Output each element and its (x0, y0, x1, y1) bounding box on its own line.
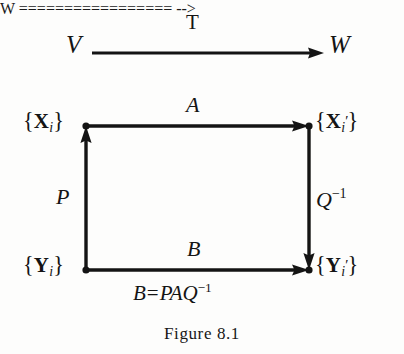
edge-right-base: Q (316, 187, 332, 212)
square-edge-label-right: Q−1 (316, 186, 346, 211)
set-symbol: Y (34, 253, 49, 277)
relation-lhs: B (133, 281, 146, 305)
set-symbol: X (34, 109, 49, 133)
brace-open: { (23, 252, 34, 277)
square-corner-dot-top-right (305, 122, 312, 129)
set-symbol: X (326, 109, 341, 133)
edge-right-exponent: −1 (332, 185, 346, 201)
top-row-map-label: T (186, 12, 199, 33)
square-label-bottom-left: {Yi} (23, 254, 64, 279)
brace-open: { (315, 252, 326, 277)
brace-close: } (348, 252, 359, 277)
top-row-target-label: W (329, 32, 350, 57)
set-symbol: Y (326, 253, 341, 277)
square-edge-label-top: A (186, 94, 199, 116)
brace-open: { (23, 108, 34, 133)
square-relation-formula: B=PAQ−1 (133, 281, 212, 304)
brace-close: } (53, 108, 64, 133)
square-edge-label-bottom: B (187, 238, 200, 260)
figure-caption: Figure 8.1 (0, 324, 404, 344)
figure-8-1: W ================= --> V T W {Xi} {Xi′}… (0, 0, 404, 354)
relation-equals: = (147, 281, 159, 305)
relation-rhs-exponent: −1 (198, 280, 212, 295)
square-label-top-right: {Xi′} (315, 110, 358, 135)
brace-close: } (53, 252, 64, 277)
brace-open: { (315, 108, 326, 133)
brace-close: } (348, 108, 359, 133)
top-row-arrow-icon (92, 47, 324, 59)
square-corner-dot-top-left (82, 122, 89, 129)
square-edge-label-left: P (56, 186, 69, 208)
square-corner-dot-bottom-right (305, 266, 312, 273)
relation-rhs-base: PAQ (160, 281, 198, 305)
top-row-source-label: V (66, 32, 81, 57)
square-label-top-left: {Xi} (23, 110, 64, 135)
square-corner-dot-bottom-left (82, 266, 89, 273)
square-label-bottom-right: {Yi′} (315, 254, 358, 279)
